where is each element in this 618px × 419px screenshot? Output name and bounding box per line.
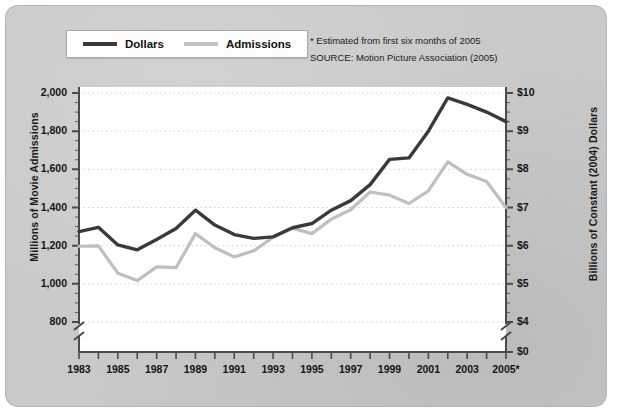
x-tick-label: 1987 <box>135 363 179 375</box>
right-tick-label: $0 <box>517 345 557 357</box>
right-tick-label: $5 <box>517 277 557 289</box>
chart-notes: * Estimated from first six months of 200… <box>310 32 497 66</box>
chart-canvas <box>6 6 606 406</box>
legend-item-admissions: Admissions <box>184 38 291 50</box>
x-tick-label: 1989 <box>173 363 217 375</box>
x-tick-label: 1993 <box>251 363 295 375</box>
right-tick-label: $6 <box>517 239 557 251</box>
plot-area-wrapper: 2,0001,8001,6001,4001,2001,000800 $10$9$… <box>6 6 606 406</box>
x-tick-label: 1999 <box>368 363 412 375</box>
legend-swatch-admissions <box>184 42 218 46</box>
note-estimate: * Estimated from first six months of 200… <box>310 32 497 49</box>
x-tick-label: 1997 <box>329 363 373 375</box>
x-tick-label: 1985 <box>96 363 140 375</box>
x-tick-label: 1991 <box>212 363 256 375</box>
chart-legend: Dollars Admissions <box>66 30 308 58</box>
right-tick-label: $8 <box>517 162 557 174</box>
legend-swatch-dollars <box>83 42 117 46</box>
right-tick-label: $7 <box>517 201 557 213</box>
right-tick-label: $9 <box>517 124 557 136</box>
x-tick-label: 2003 <box>445 363 489 375</box>
legend-label-admissions: Admissions <box>226 38 291 50</box>
x-tick-label: 2001 <box>406 363 450 375</box>
plot-background <box>79 87 506 351</box>
x-tick-label: 1983 <box>57 363 101 375</box>
x-tick-label: 2005* <box>484 363 528 375</box>
note-source: SOURCE: Motion Picture Association (2005… <box>310 49 497 66</box>
left-tick-label: 800 <box>21 315 67 327</box>
x-axis-ticks <box>79 352 506 359</box>
right-axis-ticks <box>506 93 513 352</box>
legend-item-dollars: Dollars <box>83 38 164 50</box>
left-axis-ticks <box>72 93 79 322</box>
right-tick-label: $10 <box>517 86 557 98</box>
legend-label-dollars: Dollars <box>125 38 164 50</box>
chart-figure: 2,0001,8001,6001,4001,2001,000800 $10$9$… <box>6 6 606 406</box>
right-tick-label: $4 <box>517 315 557 327</box>
x-tick-label: 1995 <box>290 363 334 375</box>
left-axis-title: Millions of Movie Admissions <box>28 87 40 287</box>
right-axis-title: Billions of Constant (2004) Dollars <box>587 89 599 299</box>
